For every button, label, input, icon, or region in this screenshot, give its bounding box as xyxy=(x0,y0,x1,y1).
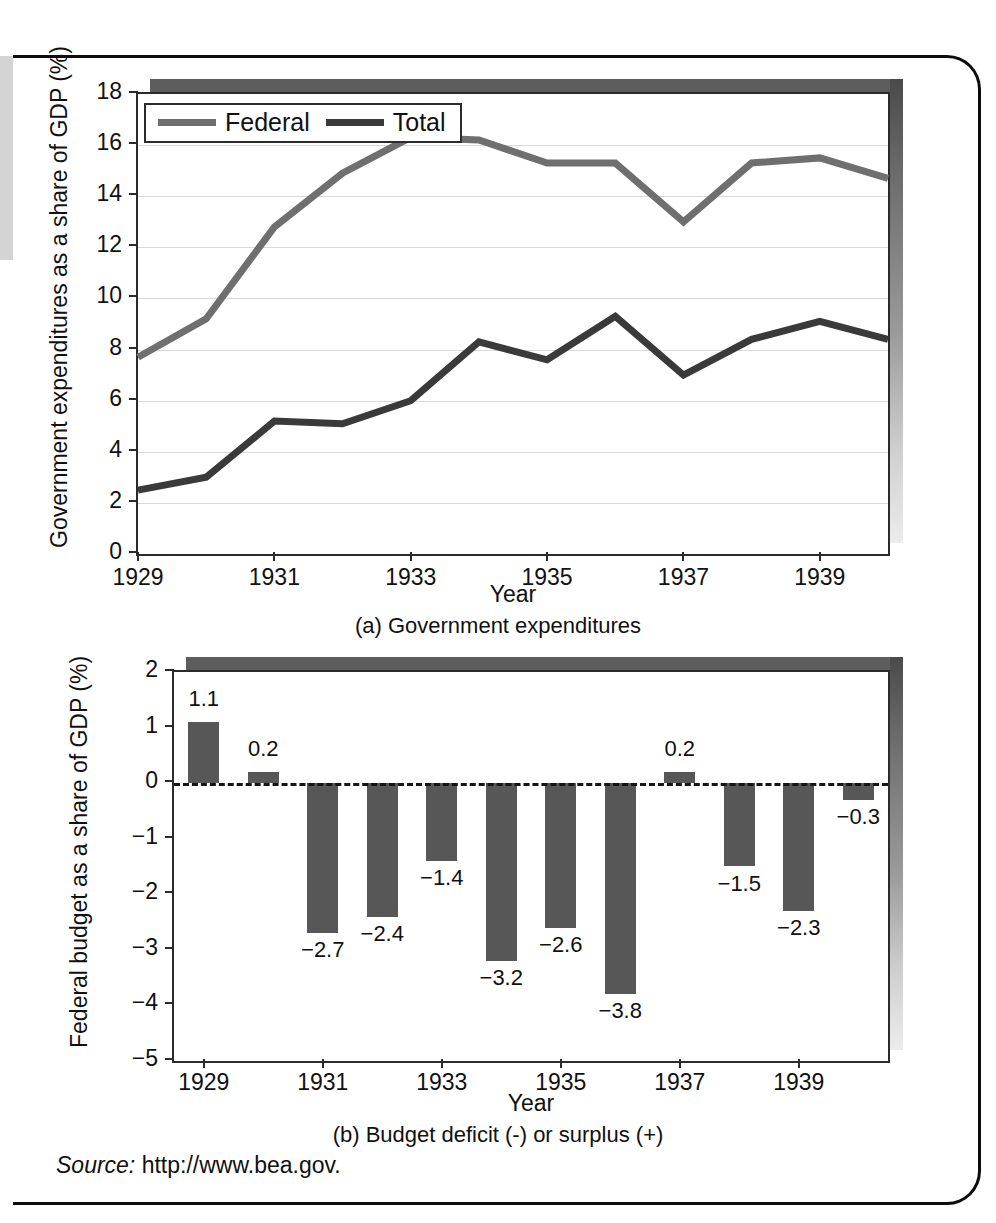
legend-label-federal: Federal xyxy=(225,110,310,135)
panel-a-series-total xyxy=(138,316,888,490)
legend-entry-total: Total xyxy=(326,110,446,135)
panel-a-y-tick-label: 4 xyxy=(80,438,122,461)
panel-a-caption: (a) Government expenditures xyxy=(0,613,996,639)
bar-1935 xyxy=(545,783,576,927)
panel-a-y-tick-label: 2 xyxy=(80,489,122,512)
panel-a-y-tick-label: 18 xyxy=(80,80,122,103)
source-note: Source: http://www.bea.gov. xyxy=(56,1152,341,1179)
panel-b-y-tick-label: 2 xyxy=(114,658,158,681)
panel-a-x-tick xyxy=(410,552,412,561)
panel-b-x-tick xyxy=(798,1059,800,1068)
panel-a-y-tick-label: 12 xyxy=(80,233,122,256)
bar-label-1932: −2.4 xyxy=(337,923,427,945)
panel-a-y-tick-label: 14 xyxy=(80,182,122,205)
panel-a-y-tick-label: 6 xyxy=(80,387,122,410)
panel-a-x-axis-title: Year xyxy=(136,581,890,608)
legend-swatch-federal xyxy=(158,119,216,126)
panel-b-y-tick-label: −1 xyxy=(114,825,158,848)
bar-1934 xyxy=(486,783,517,961)
panel-a-plot-area: FederalTotal xyxy=(136,92,890,556)
panel-a-series-federal xyxy=(138,137,888,357)
bar-1932 xyxy=(367,783,398,916)
bar-1929 xyxy=(188,722,219,783)
panel-b-y-axis-title: Federal budget as a share of GDP (%) xyxy=(66,656,93,1048)
panel-b-x-tick xyxy=(679,1059,681,1068)
bar-1930 xyxy=(248,772,279,783)
panel-a-legend: FederalTotal xyxy=(144,103,462,143)
legend-swatch-total xyxy=(326,119,384,126)
panel-b-x-tick xyxy=(441,1059,443,1068)
panel-b-y-tick-label: 1 xyxy=(114,714,158,737)
panel-b-chart xyxy=(172,657,903,1063)
panel-b-x-axis-title: Year xyxy=(172,1090,890,1117)
panel-a-x-tick xyxy=(819,552,821,561)
panel-a-chart: FederalTotal xyxy=(136,79,903,556)
bar-label-1940: −0.3 xyxy=(813,806,903,828)
panel-b-y-tick-label: −3 xyxy=(114,936,158,959)
legend-entry-federal: Federal xyxy=(158,110,310,135)
panel-a-y-tick-label: 10 xyxy=(80,284,122,307)
panel-b-x-tick xyxy=(322,1059,324,1068)
panel-a-plate-top-shadow xyxy=(150,79,903,92)
panel-b-caption: (b) Budget deficit (-) or surplus (+) xyxy=(0,1122,996,1148)
bar-1938 xyxy=(724,783,755,866)
bar-label-1939: −2.3 xyxy=(754,917,844,939)
panel-a-y-tick-label: 8 xyxy=(80,336,122,359)
panel-b-plot-area xyxy=(172,670,890,1063)
legend-label-total: Total xyxy=(393,110,446,135)
panel-a-line-plot xyxy=(138,94,888,554)
panel-b-y-tick-label: −4 xyxy=(114,991,158,1014)
source-label: Source: xyxy=(56,1152,135,1178)
bar-label-1938: −1.5 xyxy=(694,873,784,895)
panel-a-y-tick-label: 0 xyxy=(80,540,122,563)
panel-a-x-tick xyxy=(682,552,684,561)
bar-label-1934: −3.2 xyxy=(456,967,546,989)
bar-label-1936: −3.8 xyxy=(575,1000,665,1022)
panel-a-y-axis-title: Government expenditures as a share of GD… xyxy=(46,46,73,548)
bar-label-1929: 1.1 xyxy=(159,688,249,710)
bar-1939 xyxy=(783,783,814,911)
bar-1933 xyxy=(426,783,457,861)
panel-a-y-tick-label: 16 xyxy=(80,131,122,154)
bar-1931 xyxy=(307,783,338,933)
bar-1937 xyxy=(664,772,695,783)
bar-label-1930: 0.2 xyxy=(218,738,308,760)
panel-b-plate-right-shadow xyxy=(890,657,903,1050)
panel-a-plate-right-shadow xyxy=(890,79,903,543)
panel-b-zero-line xyxy=(174,783,888,786)
panel-a-x-tick xyxy=(137,552,139,561)
bar-1936 xyxy=(605,783,636,994)
panel-b-x-tick xyxy=(203,1059,205,1068)
bar-label-1935: −2.6 xyxy=(516,934,606,956)
panel-b-plate-top-shadow xyxy=(186,657,903,670)
panel-a-x-tick xyxy=(546,552,548,561)
panel-b-y-tick-label: −5 xyxy=(114,1047,158,1070)
source-url: http://www.bea.gov. xyxy=(142,1152,341,1178)
page-left-gray-block xyxy=(0,56,13,260)
panel-b-y-tick-label: 0 xyxy=(114,769,158,792)
panel-b-x-tick xyxy=(560,1059,562,1068)
panel-a-x-tick xyxy=(273,552,275,561)
bar-label-1937: 0.2 xyxy=(635,738,725,760)
bar-label-1933: −1.4 xyxy=(397,867,487,889)
panel-b-y-tick-label: −2 xyxy=(114,880,158,903)
